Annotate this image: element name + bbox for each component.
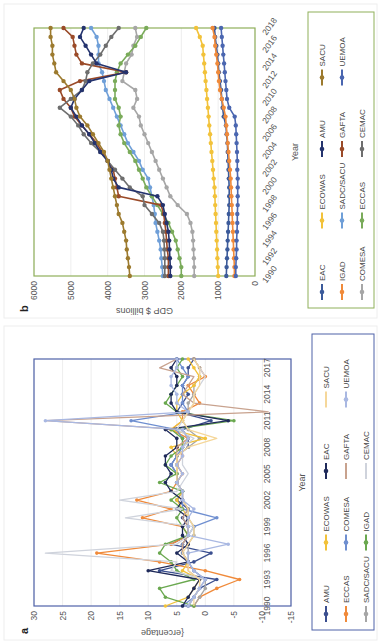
data-point [104,44,108,48]
data-point [186,595,190,599]
legend-marker [340,147,345,152]
data-point [213,203,217,207]
data-point [198,587,202,591]
data-point [228,168,232,172]
data-point [163,212,167,216]
data-point [202,61,206,65]
data-point [175,516,179,520]
data-point [206,106,210,110]
data-point [209,141,213,145]
data-point [80,123,84,127]
data-point [198,35,202,39]
data-point [176,203,180,207]
data-point [163,265,167,269]
y-tick-label: 4000 [103,281,113,300]
data-point [111,106,115,110]
data-point [175,357,179,361]
data-point [95,551,99,555]
data-point [176,247,180,251]
panel-a: a302520151050-5-10-151990199319961999200… [0,322,381,644]
data-point [220,35,224,39]
y-tick-label: 5000 [66,281,76,300]
data-point [54,70,58,74]
y-tick-label: 5 [172,611,182,616]
data-point [192,256,196,260]
data-point [168,274,172,278]
data-point [175,481,179,485]
y-tick-label: 30 [29,611,39,621]
data-point [179,265,183,269]
data-point [224,88,228,92]
data-point [181,437,185,441]
data-point [214,221,218,225]
data-point [225,132,229,136]
data-point [58,88,62,92]
data-point [168,194,172,198]
data-point [122,141,126,145]
data-point [230,203,234,207]
legend-marker [344,612,349,617]
x-tick-label: 2008 [262,437,272,456]
data-point [192,384,196,388]
data-point [234,132,238,136]
legend-label: COMESA [342,496,351,531]
data-point [211,168,215,172]
data-point [125,247,129,251]
x-tick-label: 2005 [262,464,272,483]
data-point [226,542,230,546]
data-point [113,88,117,92]
data-point [106,159,110,163]
data-point [141,176,145,180]
data-point [169,366,173,370]
data-point [204,569,208,573]
legend-label: ECOWAS [318,174,327,209]
data-point [175,375,179,379]
data-point [141,516,145,520]
legend-label: SADC/SACU [338,163,347,210]
data-point [216,274,220,278]
data-point [225,256,229,260]
data-point [186,604,190,608]
data-point [107,168,111,172]
legend-marker [320,218,325,223]
data-point [98,52,102,56]
data-point [204,578,208,582]
data-point [215,61,219,65]
data-point [137,114,141,118]
data-point [186,560,190,564]
data-point [201,52,205,56]
data-point [220,97,224,101]
legend-marker [340,290,345,295]
data-point [181,604,185,608]
data-point [100,70,104,74]
data-point [169,401,173,405]
data-point [128,150,132,154]
data-point [210,26,214,30]
data-point [61,26,65,30]
data-point [146,176,150,180]
data-point [78,114,82,118]
data-point [212,176,216,180]
y-tick-label: 10 [143,611,153,621]
data-point [203,70,207,74]
data-point [208,132,212,136]
data-point [226,221,230,225]
data-point [217,79,221,83]
legend-label: CEMAC [358,109,367,138]
data-point [94,35,98,39]
data-point [179,274,183,278]
legend-label: UEMOA [338,37,347,67]
y-tick-label: 25 [58,611,68,621]
y-tick-label: 6000 [29,281,39,300]
data-point [236,203,240,207]
legend-marker [364,540,369,545]
legend-marker [360,218,365,223]
data-point [181,445,185,449]
data-point [158,481,162,485]
x-tick-label: 1993 [262,570,272,589]
data-point [164,481,168,485]
data-point [127,265,131,269]
data-point [91,132,95,136]
legend-label: SACU [318,44,327,66]
data-point [221,52,225,56]
